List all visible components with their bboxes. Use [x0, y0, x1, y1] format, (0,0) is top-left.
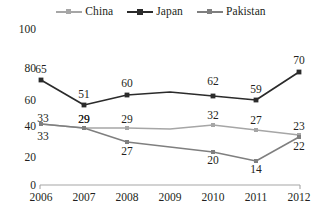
data-label-pakistan-2011: 14: [243, 164, 269, 176]
x-tick-label-2012: 2012: [279, 192, 319, 204]
data-label-pakistan-2012: 22: [286, 141, 312, 153]
x-tick-label-2008: 2008: [107, 192, 147, 204]
x-tick-label-2011: 2011: [236, 192, 276, 204]
data-label-japan-2012: 70: [286, 55, 312, 67]
data-label-japan-2006: 65: [28, 64, 54, 76]
data-label-japan-2008: 60: [114, 78, 140, 90]
y-tick-label-0: 0: [6, 180, 36, 192]
data-label-china-2012: 23: [286, 121, 312, 133]
y-tick-label-60: 60: [6, 95, 36, 107]
data-label-pakistan-2007: 29: [71, 114, 97, 126]
line-chart: China Japan Pakistan: [0, 0, 322, 216]
data-label-pakistan-2008: 27: [114, 146, 140, 158]
x-tick-label-2010: 2010: [193, 192, 233, 204]
data-label-pakistan-2010: 20: [200, 155, 226, 167]
data-label-japan-2010: 62: [200, 76, 226, 88]
y-tick-label-20: 20: [6, 152, 36, 164]
data-label-china-2006: 33: [30, 113, 56, 125]
x-tick-label-2006: 2006: [21, 192, 61, 204]
x-tick-label-2009: 2009: [150, 192, 190, 204]
series-layer: [0, 0, 322, 216]
data-label-japan-2011: 59: [243, 84, 269, 96]
data-label-pakistan-2006: 33: [30, 131, 56, 143]
plot-area: 100 80 60 40 20 0 2006 2007 2008 2009 20…: [0, 0, 322, 216]
x-tick-label-2007: 2007: [64, 192, 104, 204]
y-tick-label-100: 100: [6, 24, 36, 36]
data-label-china-2008: 29: [114, 114, 140, 126]
data-label-japan-2007: 51: [71, 89, 97, 101]
data-label-china-2011: 27: [243, 115, 269, 127]
data-label-china-2010: 32: [200, 110, 226, 122]
